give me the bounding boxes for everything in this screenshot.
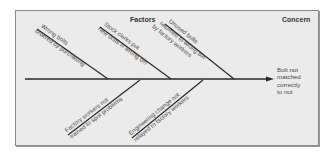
cause-bone-unused-bolts: Unused bolts returned to wrong bin by fa… bbox=[151, 12, 234, 79]
spine-arrowhead-icon bbox=[266, 77, 274, 82]
effect-line: correctly bbox=[277, 81, 313, 88]
cause-label-line2: relayed to factory workers bbox=[133, 94, 190, 142]
effect-line: Bolt not bbox=[277, 66, 313, 73]
cause-bone-engineering-change: Engineering change not relayed to factor… bbox=[128, 80, 203, 142]
cause-label-line1: Engineering change not bbox=[128, 91, 181, 136]
effect-label: Bolt not matched correctly to nut bbox=[277, 66, 313, 96]
effect-line: to nut bbox=[277, 88, 313, 95]
effect-line: matched bbox=[277, 73, 313, 80]
